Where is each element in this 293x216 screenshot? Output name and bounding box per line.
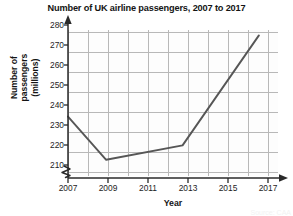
x-axis-arrowhead bbox=[279, 174, 288, 181]
chart-figure: Number of UK airline passengers, 2007 to… bbox=[0, 0, 293, 216]
y-axis-arrowhead bbox=[64, 15, 71, 24]
chart-axes bbox=[0, 0, 293, 216]
y-axis-break-icon bbox=[62, 166, 70, 178]
source-note: Source: CAA bbox=[251, 209, 291, 216]
